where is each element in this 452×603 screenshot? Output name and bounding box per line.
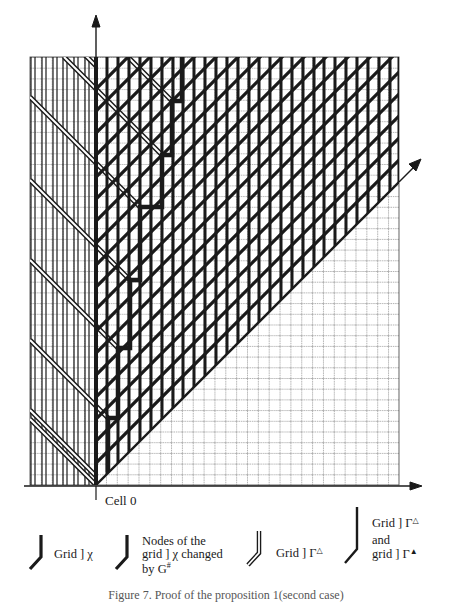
right-arrow-icon [410, 482, 422, 490]
double-bent-line-icon [244, 529, 264, 569]
legend-label-changed-nodes: Nodes of the grid ] χ changed by G# [142, 535, 223, 576]
figure-caption: Figure 7. Proof of the proposition 1(sec… [0, 588, 452, 603]
legend-item-changed-nodes [112, 533, 132, 573]
spacetime-diagram [0, 0, 452, 500]
legend-item-grid-chi [26, 533, 46, 573]
up-arrow-icon [92, 15, 100, 27]
thick-bent-line-icon [112, 533, 132, 573]
legend-item-grid-gamma-open [244, 529, 264, 569]
tall-bent-line-icon [342, 505, 362, 567]
legend-label-grid-gamma-both: Grid ] Γ△ and grid ] Γ▲ [372, 515, 419, 561]
legend-label-grid-gamma-open: Grid ] Γ△ [276, 545, 323, 559]
legend: Grid ] χ Nodes of the grid ] χ changed b… [0, 505, 452, 570]
legend-label-grid-chi: Grid ] χ [54, 548, 93, 560]
thick-bent-line-icon [26, 533, 46, 573]
diagonal-arrow-icon [409, 159, 421, 171]
legend-item-grid-gamma-both [342, 505, 362, 567]
